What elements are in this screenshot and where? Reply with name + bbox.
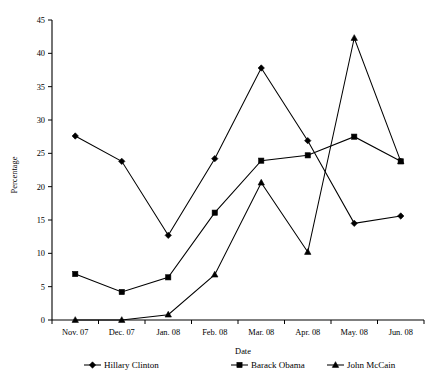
square-marker-icon bbox=[119, 289, 124, 294]
y-axis-title: Percentage bbox=[10, 156, 19, 193]
y-tick-label: 0 bbox=[41, 316, 45, 325]
square-marker-icon bbox=[212, 210, 217, 215]
x-tick-label: Dec. 07 bbox=[109, 328, 135, 337]
legend-label: Hillary Clinton bbox=[104, 360, 159, 370]
square-marker-icon bbox=[352, 134, 357, 139]
y-tick-label: 45 bbox=[37, 16, 45, 25]
x-tick-label: Jan. 08 bbox=[156, 328, 180, 337]
y-tick-label: 35 bbox=[37, 83, 45, 92]
x-tick-label: Apr. 08 bbox=[295, 328, 320, 337]
x-tick-label: Feb. 08 bbox=[202, 328, 227, 337]
y-tick-label: 15 bbox=[37, 216, 45, 225]
chart-canvas: 051015202530354045 Nov. 07Dec. 07Jan. 08… bbox=[0, 0, 436, 381]
x-tick-label: May. 08 bbox=[341, 328, 368, 337]
x-axis-title: Date bbox=[235, 347, 251, 356]
line-chart-figure: 051015202530354045 Nov. 07Dec. 07Jan. 08… bbox=[0, 0, 436, 381]
y-tick-label: 5 bbox=[41, 283, 45, 292]
y-tick-label: 20 bbox=[37, 183, 45, 192]
y-tick-label: 40 bbox=[37, 49, 45, 58]
legend-label: Barack Obama bbox=[251, 360, 305, 370]
y-tick-label: 10 bbox=[37, 249, 45, 258]
y-tick-label: 25 bbox=[37, 149, 45, 158]
x-tick-label: Jun. 08 bbox=[389, 328, 413, 337]
square-marker-icon bbox=[259, 158, 264, 163]
square-marker-icon bbox=[305, 153, 310, 158]
chart-background bbox=[0, 0, 436, 381]
x-tick-label: Mar. 08 bbox=[248, 328, 274, 337]
x-tick-label: Nov. 07 bbox=[62, 328, 88, 337]
square-marker-icon bbox=[237, 362, 242, 367]
y-tick-label: 30 bbox=[37, 116, 45, 125]
square-marker-icon bbox=[166, 275, 171, 280]
legend-label: John McCain bbox=[347, 360, 396, 370]
square-marker-icon bbox=[73, 271, 78, 276]
